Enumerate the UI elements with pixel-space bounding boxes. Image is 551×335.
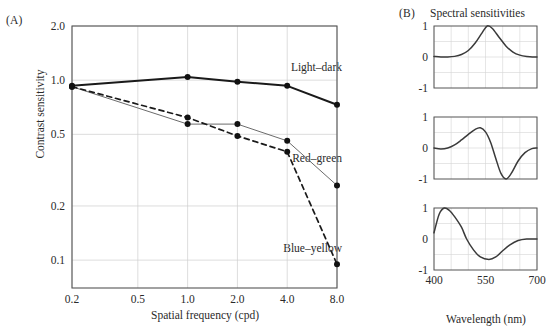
svg-text:550: 550 (477, 274, 495, 286)
svg-text:2.0: 2.0 (51, 20, 66, 32)
figure-root: (A) (B) Spectral sensitivities Contrast … (0, 0, 551, 335)
svg-text:0.5: 0.5 (131, 293, 146, 305)
svg-text:0: 0 (422, 142, 428, 154)
panel-a-tick-labels: 0.20.51.02.04.08.02.01.00.50.20.1 (51, 20, 345, 305)
svg-text:1: 1 (422, 20, 428, 32)
svg-text:400: 400 (425, 274, 443, 286)
panel-b-plots: 10-110-110-1400550700 (418, 20, 545, 286)
panel-a-data-lines (72, 77, 337, 264)
svg-text:700: 700 (528, 274, 546, 286)
svg-text:1: 1 (422, 202, 428, 214)
panel-a-data-points (69, 74, 340, 267)
panel-a-axes-frame (72, 26, 337, 288)
svg-text:1.0: 1.0 (180, 293, 195, 305)
svg-text:0.2: 0.2 (51, 200, 66, 212)
svg-text:0.5: 0.5 (51, 128, 66, 140)
charts-canvas: 0.20.51.02.04.08.02.01.00.50.20.1 10-110… (0, 0, 551, 335)
svg-text:4.0: 4.0 (280, 293, 295, 305)
svg-text:8.0: 8.0 (330, 293, 345, 305)
svg-text:0.1: 0.1 (51, 254, 66, 266)
svg-text:2.0: 2.0 (230, 293, 245, 305)
svg-text:0.2: 0.2 (65, 293, 80, 305)
svg-text:1: 1 (422, 111, 428, 123)
svg-text:0: 0 (422, 233, 428, 245)
svg-text:-1: -1 (418, 82, 428, 94)
svg-text:0: 0 (422, 51, 428, 63)
svg-text:-1: -1 (418, 173, 428, 185)
svg-text:1.0: 1.0 (51, 74, 66, 86)
panel-a-gridlines (72, 26, 337, 288)
